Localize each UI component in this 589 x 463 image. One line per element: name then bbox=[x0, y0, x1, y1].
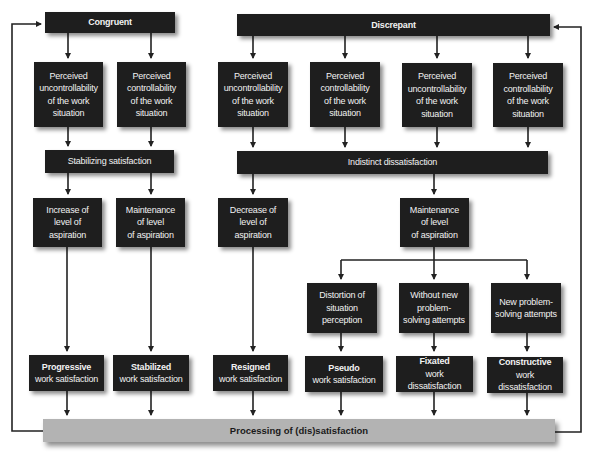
coping-label: New problem- solving attempts bbox=[495, 296, 557, 321]
perception-box: Perceived controllability of the work si… bbox=[117, 62, 186, 127]
outcome-box-pseudo: Pseudowork satisfaction bbox=[305, 356, 383, 392]
perception-box: Perceived controllability of the work si… bbox=[493, 63, 563, 127]
aspiration-label: Decrease of level of aspiration bbox=[230, 204, 276, 242]
coping-label: Distortion of situation perception bbox=[319, 289, 364, 327]
perception-label: Perceived uncontrollability of the work … bbox=[408, 70, 467, 120]
perception-label: Perceived uncontrollability of the work … bbox=[224, 70, 283, 120]
stabilizing-satisfaction-label: Stabilizing satisfaction bbox=[68, 155, 152, 168]
outcome-box-resigned: Resignedwork satisfaction bbox=[213, 355, 288, 391]
outcome-box-constructive: Constructivework dissatisfaction bbox=[487, 357, 563, 393]
outcome-box-fixated: Fixatedwork dissatisfaction bbox=[396, 356, 473, 392]
processing-bar: Processing of (dis)satisfaction bbox=[43, 419, 555, 442]
coping-box: Distortion of situation perception bbox=[307, 283, 377, 333]
perception-label: Perceived controllability of the work si… bbox=[503, 70, 552, 120]
outcome-type: Pseudo bbox=[312, 362, 375, 375]
outcome-type: Constructive bbox=[490, 356, 560, 369]
outcome-desc: work satisfaction bbox=[35, 373, 98, 386]
outcome-box-progressive: Progressivework satisfaction bbox=[29, 355, 104, 391]
aspiration-box: Increase of level of aspiration bbox=[33, 198, 102, 247]
aspiration-box: Decrease of level of aspiration bbox=[218, 198, 288, 247]
outcome-type: Resigned bbox=[219, 361, 282, 374]
outcome-desc: work dissatisfaction bbox=[399, 368, 470, 393]
perception-box: Perceived uncontrollability of the work … bbox=[402, 63, 472, 127]
perception-label: Perceived controllability of the work si… bbox=[127, 70, 176, 120]
aspiration-box: Maintenance of level of aspiration bbox=[400, 198, 469, 247]
outcome-desc: work satisfaction bbox=[219, 373, 282, 386]
coping-box: Without new problem- solving attempts bbox=[399, 283, 469, 333]
aspiration-box: Maintenance of level of aspiration bbox=[116, 198, 185, 247]
perception-box: Perceived uncontrollability of the work … bbox=[218, 62, 288, 127]
aspiration-label: Increase of level of aspiration bbox=[46, 204, 88, 242]
outcome-desc: work satisfaction bbox=[312, 374, 375, 387]
diagram: Congruent Discrepant Perceived uncontrol… bbox=[0, 0, 589, 463]
coping-label: Without new problem- solving attempts bbox=[403, 289, 465, 327]
perception-label: Perceived uncontrollability of the work … bbox=[39, 70, 98, 120]
congruent-label: Congruent bbox=[88, 16, 132, 29]
aspiration-label: Maintenance of level of aspiration bbox=[410, 204, 459, 242]
indistinct-dissatisfaction-label: Indistinct dissatisfaction bbox=[348, 156, 437, 169]
outcome-desc: work dissatisfaction bbox=[490, 369, 560, 394]
processing-label: Processing of (dis)satisfaction bbox=[230, 425, 368, 436]
discrepant-label: Discrepant bbox=[371, 19, 416, 32]
aspiration-label: Maintenance of level of aspiration bbox=[126, 204, 175, 242]
perception-box: Perceived uncontrollability of the work … bbox=[34, 62, 103, 127]
perception-box: Perceived controllability of the work si… bbox=[310, 62, 380, 127]
outcome-box-stabilized: Stabilizedwork satisfaction bbox=[113, 355, 189, 391]
outcome-type: Fixated bbox=[399, 355, 470, 368]
stabilizing-satisfaction-box: Stabilizing satisfaction bbox=[45, 150, 174, 173]
discrepant-box: Discrepant bbox=[237, 14, 550, 36]
outcome-desc: work satisfaction bbox=[119, 373, 182, 386]
perception-label: Perceived controllability of the work si… bbox=[320, 70, 369, 120]
coping-box: New problem- solving attempts bbox=[491, 283, 561, 333]
outcome-type: Progressive bbox=[35, 361, 98, 374]
indistinct-dissatisfaction-box: Indistinct dissatisfaction bbox=[237, 151, 548, 174]
outcome-type: Stabilized bbox=[119, 361, 182, 374]
congruent-box: Congruent bbox=[45, 12, 175, 33]
